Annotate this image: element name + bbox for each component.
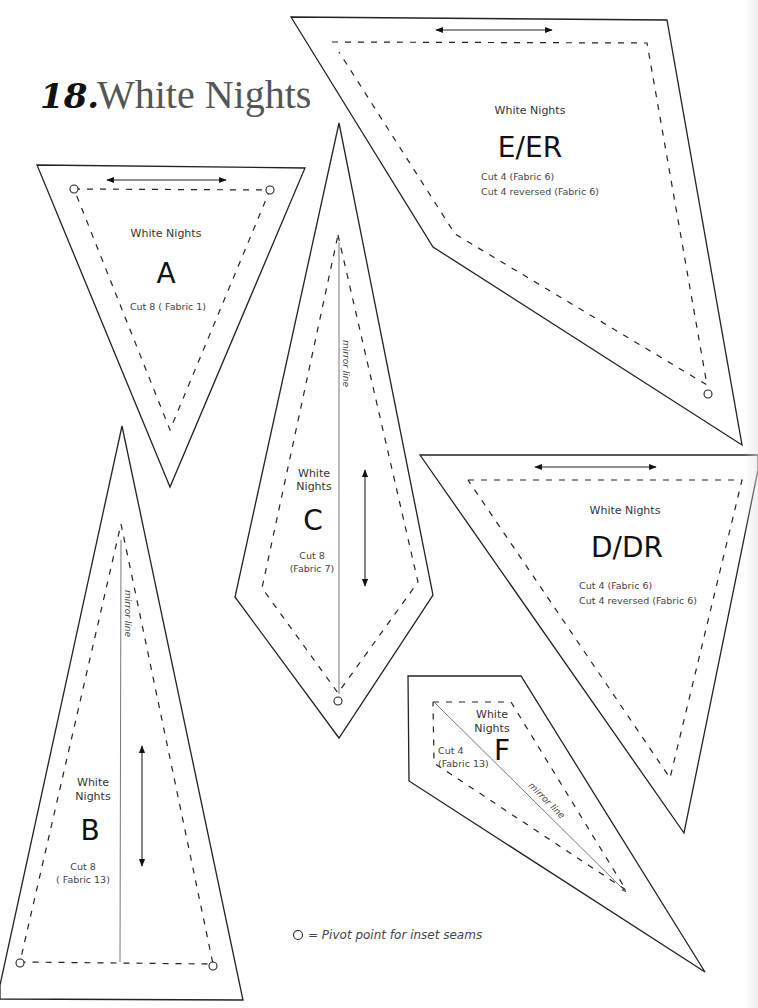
pattern-template-sheet: 18. White Nights White Nights E/ER Cut 4… — [0, 0, 758, 1008]
cut-instruction-fabric: (Fabric 7) — [290, 563, 335, 574]
cut-instruction: Cut 4 — [438, 745, 463, 756]
cut-instruction: Cut 4 (Fabric 6) — [481, 171, 554, 182]
pivot-point-icon — [266, 186, 274, 194]
piece-b-outline — [0, 426, 243, 1000]
page-title: 18. White Nights — [40, 72, 311, 117]
piece-letter: F — [494, 734, 510, 767]
piece-letter: D/DR — [591, 531, 663, 564]
legend: = Pivot point for inset seams — [294, 928, 483, 942]
piece-letter: E/ER — [498, 131, 562, 164]
mirror-line-label: mirror line — [123, 590, 133, 637]
piece-name: White Nights — [495, 104, 566, 117]
pivot-point-icon — [16, 959, 24, 967]
piece-name: White — [77, 776, 109, 789]
cut-instruction: Cut 8 ( Fabric 1) — [130, 301, 206, 312]
piece-name: White — [476, 708, 508, 721]
pattern-page: 18. White Nights White Nights E/ER Cut 4… — [0, 0, 758, 1008]
piece-name: White Nights — [131, 227, 202, 240]
cut-instruction: Cut 8 — [299, 550, 324, 561]
title-text: White Nights — [97, 72, 311, 117]
piece-b: mirror line White Nights B Cut 8 ( Fabri… — [0, 426, 243, 1000]
piece-name: White — [298, 467, 330, 480]
cut-instruction-fabric: (Fabric 13) — [438, 758, 489, 769]
pivot-point-icon — [704, 390, 712, 398]
pivot-point-icon — [334, 697, 342, 705]
piece-letter: C — [303, 504, 323, 537]
cut-instruction-reversed: Cut 4 reversed (Fabric 6) — [579, 595, 697, 606]
piece-letter: A — [156, 257, 175, 290]
mirror-line-label: mirror line — [341, 340, 351, 387]
cut-instruction: Cut 4 (Fabric 6) — [579, 580, 652, 591]
legend-text: = Pivot point for inset seams — [308, 928, 482, 942]
pivot-point-icon — [209, 962, 217, 970]
piece-name: Nights — [296, 480, 332, 493]
cut-instruction-fabric: ( Fabric 13) — [56, 874, 110, 885]
piece-name: White Nights — [590, 504, 661, 517]
piece-a: White Nights A Cut 8 ( Fabric 1) — [37, 165, 305, 487]
piece-name: Nights — [75, 790, 111, 803]
pivot-point-icon — [70, 185, 78, 193]
cut-instruction: Cut 8 — [70, 861, 95, 872]
title-number: 18. — [40, 76, 99, 116]
piece-a-outline — [37, 165, 305, 487]
piece-letter: B — [80, 814, 99, 847]
pivot-point-icon — [294, 931, 303, 940]
cut-instruction-reversed: Cut 4 reversed (Fabric 6) — [481, 186, 599, 197]
